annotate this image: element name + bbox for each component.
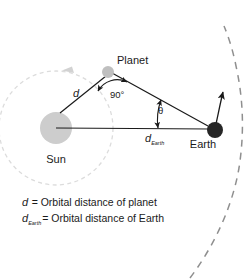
- legend-symbol-0: d: [22, 196, 29, 208]
- planet-body: [102, 66, 114, 78]
- planet-label: Planet: [117, 54, 148, 66]
- earth-body: [207, 122, 223, 138]
- planet-earth-line: [112, 73, 208, 126]
- distance-d-label: d: [73, 87, 80, 99]
- theta-label: θ: [158, 105, 163, 116]
- earth-label: Earth: [190, 138, 216, 150]
- earth-orbit-path: [190, 26, 242, 278]
- right-angle-label: 90°: [110, 89, 125, 100]
- legend-row-1: dEarth= Orbital distance of Earth: [22, 212, 164, 226]
- earth-orbit-direction-arrow: [216, 92, 223, 124]
- legend-text-1: = Orbital distance of Earth: [42, 212, 164, 224]
- legend-subscript-1: Earth: [28, 220, 41, 226]
- distance-d-earth-label: dEarth: [145, 132, 164, 146]
- orbital-distance-diagram: Planet Sun Earth d 90° θ dEarth d= Orbit…: [0, 0, 246, 280]
- legend-row-0: d= Orbital distance of planet: [22, 196, 157, 208]
- d-earth-subscript: Earth: [151, 140, 164, 146]
- diagram-canvas: Planet Sun Earth d 90° θ dEarth d= Orbit…: [0, 0, 246, 280]
- sun-earth-line: [56, 128, 210, 129]
- sun-planet-line: [60, 76, 106, 113]
- sun-label: Sun: [46, 153, 66, 165]
- legend-text-0: = Orbital distance of planet: [32, 196, 157, 208]
